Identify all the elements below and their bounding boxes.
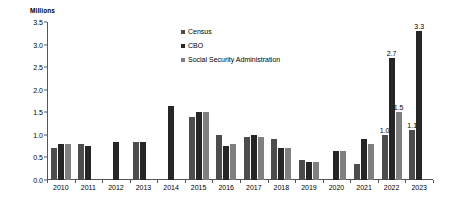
x-axis-tick-mark — [185, 180, 186, 183]
bar[interactable] — [196, 112, 202, 180]
x-axis-tick-label: 2023 — [411, 184, 427, 191]
legend-swatch-icon — [181, 44, 185, 48]
bar-group: 2010 — [47, 22, 75, 180]
bar[interactable] — [58, 144, 64, 180]
legend-swatch-icon — [181, 30, 185, 34]
bar-value-label: 1.5 — [394, 104, 404, 111]
bar[interactable] — [85, 146, 91, 180]
legend-item[interactable]: Social Security Administration — [181, 56, 280, 63]
bar[interactable] — [258, 137, 264, 180]
bar[interactable] — [271, 139, 277, 180]
bar-group: 2011 — [75, 22, 103, 180]
bar-group: 2019 — [295, 22, 323, 180]
legend-label: Census — [188, 28, 212, 35]
x-axis-tick-label: 2019 — [301, 184, 317, 191]
bar[interactable] — [299, 160, 305, 180]
chart-legend: CensusCBOSocial Security Administration — [181, 28, 280, 70]
x-axis-tick-label: 2020 — [329, 184, 345, 191]
bar-group: 1.02.71.52022 — [378, 22, 406, 180]
bar[interactable] — [113, 142, 119, 180]
legend-label: CBO — [188, 42, 203, 49]
bar[interactable]: 1.1 — [409, 130, 415, 180]
x-axis-tick-label: 2018 — [274, 184, 290, 191]
x-axis-tick-mark — [378, 180, 379, 183]
x-axis-tick-label: 2017 — [246, 184, 262, 191]
bar[interactable] — [244, 137, 250, 180]
x-axis-tick-mark — [405, 180, 406, 183]
x-axis-tick-label: 2014 — [163, 184, 179, 191]
bar[interactable] — [203, 112, 209, 180]
x-axis-tick-label: 2022 — [384, 184, 400, 191]
bar[interactable] — [313, 162, 319, 180]
bar-group: 2012 — [102, 22, 130, 180]
legend-label: Social Security Administration — [188, 56, 280, 63]
legend-item[interactable]: Census — [181, 28, 280, 35]
x-axis-tick-label: 2016 — [218, 184, 234, 191]
x-axis-tick-label: 2013 — [136, 184, 152, 191]
bar-group: 2021 — [350, 22, 378, 180]
bar-chart: Millions 0.00.51.01.52.02.53.03.52010201… — [0, 0, 453, 213]
bar-value-label: 2.7 — [387, 50, 397, 57]
bar[interactable] — [361, 139, 367, 180]
bar[interactable] — [133, 142, 139, 180]
bar[interactable] — [78, 144, 84, 180]
x-axis-tick-mark — [240, 180, 241, 183]
bar[interactable] — [140, 142, 146, 180]
bar[interactable] — [65, 144, 71, 180]
x-axis-tick-mark — [47, 180, 48, 183]
bar[interactable] — [51, 148, 57, 180]
bar[interactable] — [285, 148, 291, 180]
x-axis-tick-mark — [130, 180, 131, 183]
x-axis-tick-mark — [295, 180, 296, 183]
bar[interactable]: 3.3 — [416, 31, 422, 180]
bar-group: 2013 — [130, 22, 158, 180]
bar[interactable] — [354, 164, 360, 180]
bar[interactable] — [278, 148, 284, 180]
x-axis-tick-label: 2012 — [108, 184, 124, 191]
bar[interactable] — [223, 146, 229, 180]
x-axis-tick-label: 2021 — [356, 184, 372, 191]
legend-item[interactable]: CBO — [181, 42, 280, 49]
bar[interactable] — [333, 151, 339, 180]
legend-swatch-icon — [181, 58, 185, 62]
bar[interactable] — [306, 162, 312, 180]
bar-group: 1.13.32023 — [405, 22, 433, 180]
y-axis-title: Millions — [30, 7, 55, 14]
x-axis-tick-mark — [157, 180, 158, 183]
x-axis-tick-mark — [102, 180, 103, 183]
x-axis-tick-mark — [350, 180, 351, 183]
bar[interactable] — [251, 135, 257, 180]
x-axis-tick-label: 2011 — [81, 184, 96, 191]
bar[interactable] — [230, 144, 236, 180]
bar[interactable]: 2.7 — [389, 58, 395, 180]
bar[interactable] — [340, 151, 346, 180]
bar-group: 2020 — [323, 22, 351, 180]
x-axis-tick-mark — [268, 180, 269, 183]
bar-value-label: 3.3 — [414, 23, 424, 30]
x-axis-tick-label: 2015 — [191, 184, 207, 191]
x-axis-tick-mark — [75, 180, 76, 183]
x-axis-tick-mark — [433, 180, 434, 183]
bar[interactable]: 1.0 — [382, 135, 388, 180]
bar[interactable]: 1.5 — [396, 112, 402, 180]
x-axis-tick-label: 2010 — [53, 184, 69, 191]
bar[interactable] — [189, 117, 195, 180]
x-axis-tick-mark — [323, 180, 324, 183]
bar[interactable] — [216, 135, 222, 180]
bar[interactable] — [368, 144, 374, 180]
x-axis-tick-mark — [212, 180, 213, 183]
bar[interactable] — [168, 106, 174, 180]
